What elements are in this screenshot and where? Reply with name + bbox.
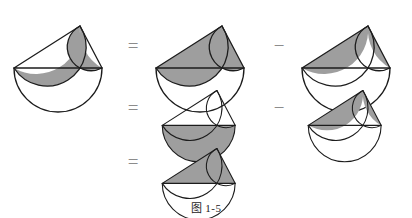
triangle-outline: [162, 91, 235, 126]
operator-minus-row2: −: [270, 98, 288, 117]
operator-equals-row1: =: [124, 36, 142, 55]
operator-minus-row1: −: [270, 36, 288, 55]
figure-triangle: [150, 132, 254, 190]
figure-big-semicircle: [150, 74, 254, 132]
figure-leg-semicircles: [146, 6, 262, 76]
segments-row1-svg: [292, 6, 408, 76]
figure-lunes: [4, 6, 120, 76]
big-semicircle-svg: [150, 74, 254, 132]
region-triangle-ABC: [162, 149, 235, 184]
segments-row2-svg: [296, 74, 400, 132]
region-segment-AC: [302, 26, 368, 74]
figure-canvas: = − = − = 图 1-5: [0, 0, 412, 218]
figure-segments-row1: [292, 6, 408, 76]
lunes-svg: [4, 6, 120, 76]
triangle-svg: [150, 132, 254, 190]
leg-semicircles-svg: [146, 6, 262, 76]
figure-segments-row2: [296, 74, 400, 132]
arc-semicircle-CB: [206, 91, 235, 128]
figure-caption: 图 1-5: [0, 199, 412, 215]
operator-equals-row2: =: [124, 98, 142, 117]
region-segment-AC: [308, 91, 363, 131]
operator-equals-row3: =: [124, 152, 142, 171]
arc-semicircle-AB: [308, 125, 381, 161]
